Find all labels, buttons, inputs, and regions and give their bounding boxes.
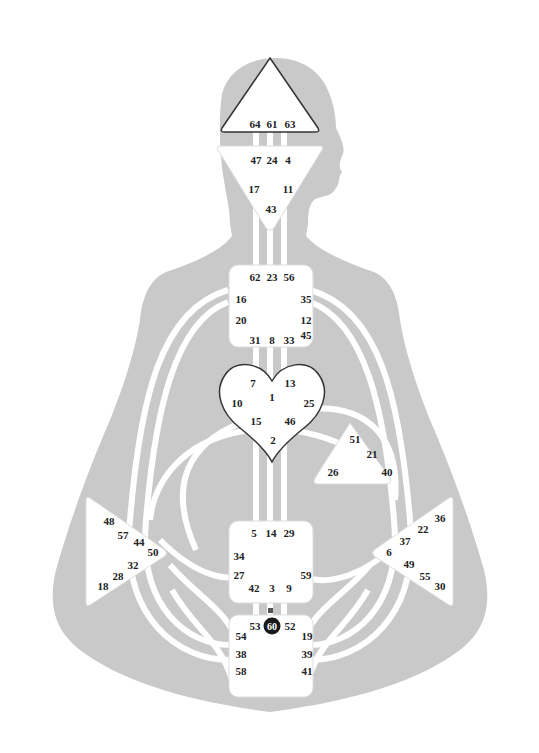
gate-52: 52 (285, 621, 296, 632)
gate-60-active: 60 (264, 618, 281, 635)
gate-4: 4 (285, 155, 291, 166)
gate-36: 36 (435, 513, 446, 524)
gate-44: 44 (134, 537, 145, 548)
gate-18: 18 (98, 581, 109, 592)
gate-56: 56 (284, 272, 295, 283)
gate-42: 42 (249, 583, 260, 594)
gate-23: 23 (267, 272, 278, 283)
gate-30: 30 (435, 581, 446, 592)
gate-31: 31 (250, 335, 261, 346)
gate-53: 53 (250, 621, 261, 632)
gate-6: 6 (386, 547, 392, 558)
gate-22: 22 (418, 524, 429, 535)
gate-14: 14 (266, 528, 277, 539)
gate-10: 10 (232, 398, 243, 409)
gate-34: 34 (234, 551, 245, 562)
gate-5: 5 (251, 528, 257, 539)
gate-35: 35 (301, 294, 312, 305)
gate-41: 41 (302, 666, 313, 677)
bodygraph-svg (0, 0, 539, 753)
marker-square (268, 608, 273, 613)
gate-32: 32 (128, 560, 139, 571)
gate-39: 39 (302, 649, 313, 660)
gate-55: 55 (420, 571, 431, 582)
gate-50: 50 (148, 547, 159, 558)
gate-61: 61 (267, 119, 278, 130)
gate-8: 8 (269, 335, 275, 346)
gate-19: 19 (302, 631, 313, 642)
gate-33: 33 (284, 335, 295, 346)
gate-57: 57 (118, 530, 129, 541)
gate-12: 12 (301, 315, 312, 326)
gate-45: 45 (301, 330, 312, 341)
gate-51: 51 (350, 434, 361, 445)
gate-59: 59 (301, 570, 312, 581)
gate-40: 40 (382, 467, 393, 478)
gate-58: 58 (236, 666, 247, 677)
gate-43: 43 (266, 204, 277, 215)
gate-17: 17 (249, 184, 260, 195)
gate-20: 20 (236, 315, 247, 326)
gate-47: 47 (251, 155, 262, 166)
gate-21: 21 (367, 449, 378, 460)
gate-9: 9 (286, 583, 292, 594)
gate-15: 15 (251, 416, 262, 427)
gate-28: 28 (113, 571, 124, 582)
gate-62: 62 (250, 272, 261, 283)
gate-16: 16 (236, 294, 247, 305)
gate-37: 37 (400, 536, 411, 547)
gate-48: 48 (104, 516, 115, 527)
gate-25: 25 (304, 398, 315, 409)
gate-11: 11 (283, 184, 293, 195)
gate-49: 49 (404, 559, 415, 570)
gate-2: 2 (270, 435, 276, 446)
gate-38: 38 (236, 649, 247, 660)
gate-27: 27 (234, 570, 245, 581)
gate-29: 29 (284, 528, 295, 539)
bodygraph: 64 61 63 47 24 4 17 11 43 62 23 56 16 35… (0, 0, 539, 753)
gate-24: 24 (267, 155, 278, 166)
gate-3: 3 (269, 583, 275, 594)
gate-26: 26 (328, 467, 339, 478)
gate-7: 7 (250, 378, 256, 389)
gate-64: 64 (250, 119, 261, 130)
gate-63: 63 (285, 119, 296, 130)
gate-54: 54 (236, 631, 247, 642)
gate-1: 1 (269, 392, 275, 403)
gate-13: 13 (285, 378, 296, 389)
gate-46: 46 (285, 416, 296, 427)
